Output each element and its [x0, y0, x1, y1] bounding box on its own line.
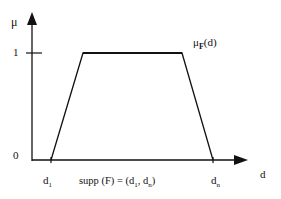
membership-diagram — [0, 0, 281, 199]
y-tick-label-1: 1 — [13, 47, 19, 58]
dn-label: dn — [211, 175, 220, 189]
y-axis-label: μ — [11, 16, 17, 28]
x-axis-label: d — [260, 169, 266, 180]
y-tick-label-0: 0 — [13, 150, 19, 161]
curve-label: μF(d) — [193, 37, 217, 51]
membership-curve — [51, 53, 213, 160]
y-axis-arrow-icon — [27, 12, 37, 25]
support-label: supp (F) = (d1, dn) — [79, 176, 155, 189]
d1-label: d1 — [43, 175, 52, 189]
x-axis-arrow-icon — [234, 155, 248, 165]
